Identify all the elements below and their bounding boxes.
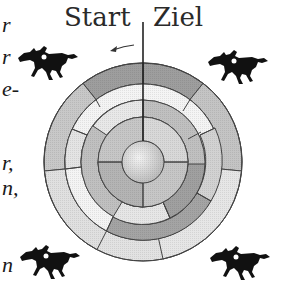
horse-rider-icon	[206, 48, 270, 86]
horse-rider-icon	[16, 44, 80, 82]
horse-rider-icon	[208, 244, 272, 282]
horse-rider-icon	[18, 243, 82, 281]
direction-arrow-icon	[110, 45, 134, 52]
